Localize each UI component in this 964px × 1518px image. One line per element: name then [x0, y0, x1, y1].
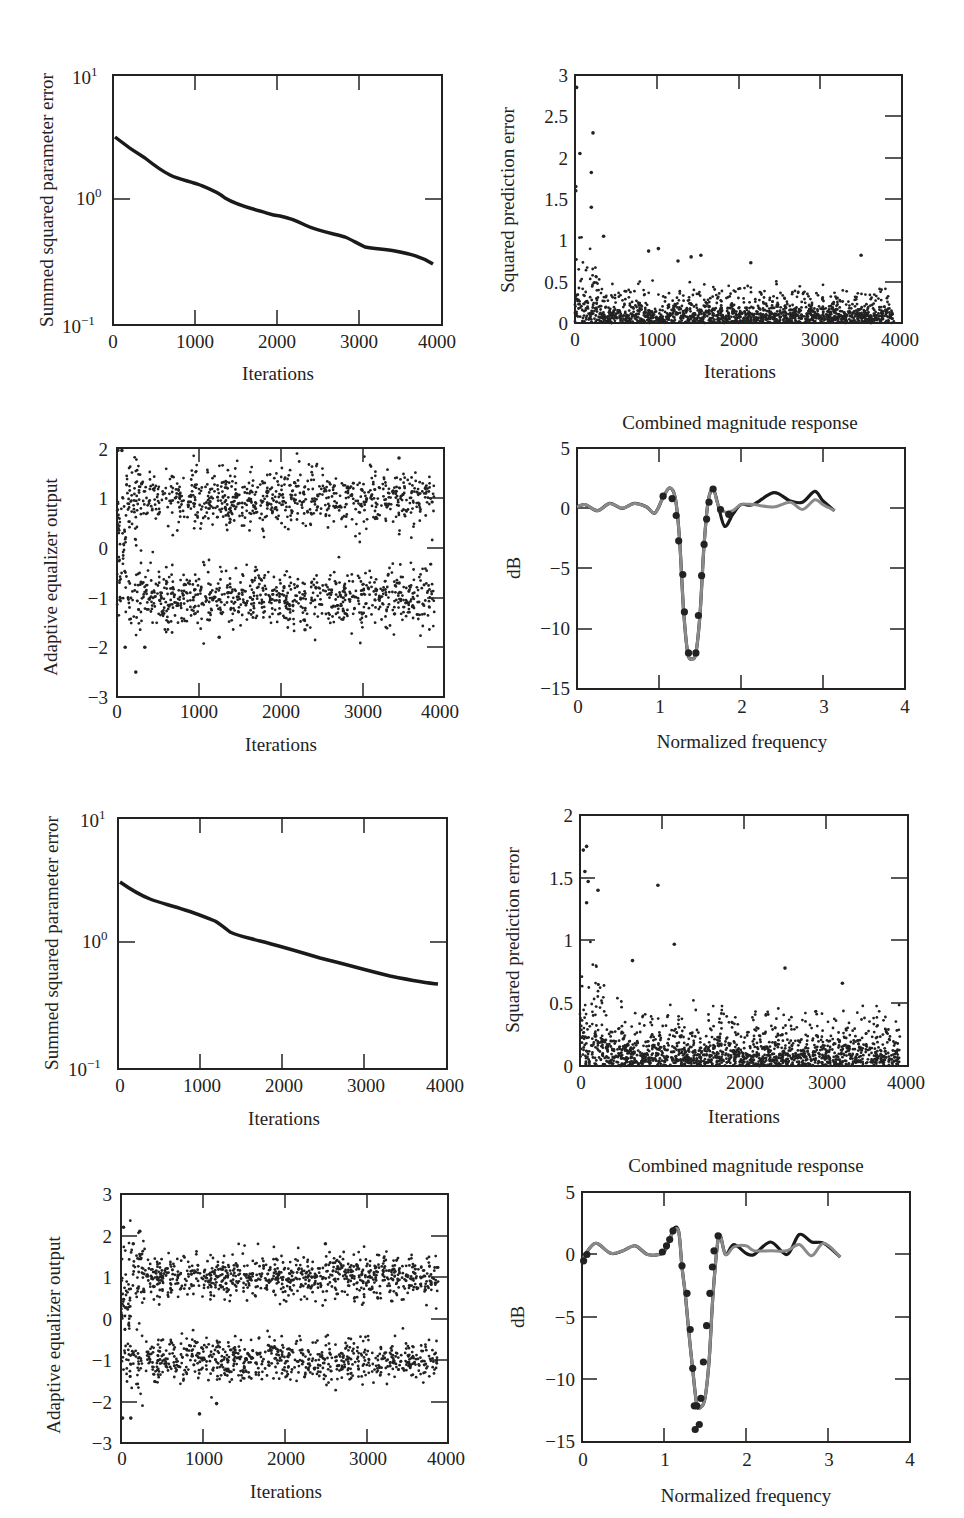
- y-axis-label: Summed squared parameter error: [36, 72, 57, 326]
- plot-frame: [121, 1194, 448, 1443]
- svg-text:2000: 2000: [267, 1448, 305, 1469]
- x-tick-labels: 0 1 2 3 4: [578, 1449, 915, 1470]
- panel-magnitude-response-2: Combined magnitude response −15 −10 −5 0…: [480, 1145, 964, 1518]
- svg-text:2: 2: [564, 805, 574, 826]
- plot-equalizer-output-2: −3 −2 −1 0 1 2 3 0 1000 2000 3000 4000 I…: [0, 1145, 480, 1518]
- svg-text:0: 0: [559, 313, 569, 334]
- svg-text:0: 0: [573, 696, 583, 717]
- magnitude-curves: [580, 1227, 840, 1433]
- plot-frame: [577, 448, 905, 689]
- svg-text:1: 1: [99, 488, 109, 509]
- x-tick-labels: 0 1 2 3 4: [573, 696, 910, 717]
- svg-text:−10: −10: [540, 618, 570, 639]
- x-axis-label: Iterations: [245, 734, 317, 755]
- svg-text:2: 2: [103, 1226, 113, 1247]
- svg-text:3000: 3000: [349, 1448, 387, 1469]
- svg-text:3000: 3000: [801, 329, 839, 350]
- panel-pred-error-2: 0 0.5 1 1.5 2 0 1000 2000 3000 4000 Iter…: [480, 765, 964, 1145]
- svg-text:2: 2: [99, 439, 109, 460]
- svg-text:−15: −15: [545, 1431, 575, 1452]
- svg-text:−15: −15: [540, 678, 570, 699]
- svg-text:3: 3: [824, 1449, 834, 1470]
- scatter-points: [120, 1219, 440, 1420]
- svg-text:3: 3: [103, 1184, 113, 1205]
- svg-text:0: 0: [561, 498, 571, 519]
- plot-param-error-1: 101 100 10−1 0 1000 2000 3000 4000 Itera…: [0, 0, 480, 395]
- x-axis-label: Normalized frequency: [657, 731, 828, 752]
- svg-text:1: 1: [564, 930, 574, 951]
- svg-text:1000: 1000: [185, 1448, 223, 1469]
- y-axis-label: dB: [503, 557, 524, 579]
- plot-param-error-2: 101 100 10−1 0 1000 2000 3000 4000 Itera…: [0, 765, 480, 1145]
- y-tick-labels: −15 −10 −5 0 5: [545, 1182, 575, 1452]
- ytick-10-m1: 10−1: [68, 1056, 101, 1080]
- svg-text:2: 2: [742, 1449, 752, 1470]
- svg-text:5: 5: [561, 438, 571, 459]
- svg-text:0: 0: [108, 331, 118, 352]
- svg-text:4000: 4000: [427, 1448, 465, 1469]
- svg-text:2000: 2000: [262, 701, 300, 722]
- tick-marks: [121, 1194, 448, 1443]
- svg-text:−2: −2: [92, 1392, 112, 1413]
- svg-text:2000: 2000: [726, 1072, 764, 1093]
- svg-text:1000: 1000: [180, 701, 218, 722]
- plot-pred-error-2: 0 0.5 1 1.5 2 0 1000 2000 3000 4000 Iter…: [480, 765, 964, 1145]
- x-tick-labels: 0 1000 2000 3000 4000: [576, 1072, 925, 1093]
- svg-text:−2: −2: [88, 637, 108, 658]
- svg-text:3: 3: [819, 696, 829, 717]
- svg-text:1: 1: [559, 230, 569, 251]
- y-axis-label: Squared prediction error: [497, 106, 518, 292]
- scatter-points: [579, 845, 902, 1068]
- x-tick-labels: 0 1000 2000 3000 4000: [115, 1075, 464, 1096]
- x-tick-labels: 0 1000 2000 3000 4000: [570, 329, 919, 350]
- x-axis-label: Iterations: [250, 1481, 322, 1502]
- svg-text:1000: 1000: [183, 1075, 221, 1096]
- svg-text:4000: 4000: [418, 331, 456, 352]
- y-axis-label: Adaptive equalizer output: [43, 1236, 64, 1434]
- svg-text:4: 4: [900, 696, 910, 717]
- gray-response-curve: [577, 488, 835, 659]
- svg-text:2000: 2000: [720, 329, 758, 350]
- svg-text:−10: −10: [545, 1369, 575, 1390]
- ytick-10-0: 100: [76, 185, 102, 209]
- plot-equalizer-output-1: −3 −2 −1 0 1 2 0 1000 2000 3000 4000 Ite…: [0, 395, 480, 765]
- svg-text:1.5: 1.5: [549, 868, 573, 889]
- x-axis-label: Iterations: [242, 363, 314, 384]
- svg-text:0: 0: [576, 1072, 586, 1093]
- y-tick-labels: −15 −10 −5 0 5: [540, 438, 570, 699]
- ytick-10-0: 100: [82, 928, 108, 952]
- chart-title: Combined magnitude response: [628, 1155, 863, 1176]
- panel-param-error-2: 101 100 10−1 0 1000 2000 3000 4000 Itera…: [0, 765, 480, 1145]
- plot-frame: [118, 818, 447, 1069]
- svg-text:−1: −1: [88, 588, 108, 609]
- log-yticks: 101 100 10−1: [62, 64, 102, 337]
- svg-text:−3: −3: [88, 687, 108, 708]
- y-tick-labels: 0 0.5 1 1.5 2: [549, 805, 573, 1077]
- svg-text:0: 0: [566, 1244, 576, 1265]
- panel-param-error-1: 101 100 10−1 0 1000 2000 3000 4000 Itera…: [0, 0, 480, 395]
- x-tick-labels: 0 1000 2000 3000 4000: [117, 1448, 465, 1469]
- tick-marks: [580, 815, 908, 1003]
- svg-text:2.5: 2.5: [544, 106, 568, 127]
- svg-text:0: 0: [564, 1056, 574, 1077]
- y-tick-labels: −3 −2 −1 0 1 2: [88, 439, 108, 708]
- tick-marks: [113, 75, 442, 325]
- y-axis-label: Squared prediction error: [502, 846, 523, 1032]
- y-axis-label: Summed squared parameter error: [41, 815, 62, 1069]
- svg-text:3000: 3000: [808, 1072, 846, 1093]
- tick-marks: [199, 448, 444, 697]
- param-error-curve: [120, 882, 438, 984]
- x-axis-label: Iterations: [248, 1108, 320, 1129]
- svg-text:−1: −1: [92, 1350, 112, 1371]
- magnitude-curves: [577, 485, 835, 659]
- plot-magnitude-response-2: Combined magnitude response −15 −10 −5 0…: [480, 1145, 964, 1518]
- ytick-10-1: 101: [80, 807, 106, 831]
- svg-text:1: 1: [655, 696, 665, 717]
- svg-text:1.5: 1.5: [544, 189, 568, 210]
- y-tick-labels: −3 −2 −1 0 1 2 3: [92, 1184, 112, 1454]
- plot-pred-error-1: 0 0.5 1 1.5 2 2.5 3 0 1000 2000 3000 400…: [480, 0, 964, 395]
- svg-text:1: 1: [103, 1267, 113, 1288]
- svg-text:0: 0: [99, 538, 109, 559]
- svg-text:2: 2: [559, 148, 569, 169]
- ytick-10-1: 101: [72, 64, 98, 88]
